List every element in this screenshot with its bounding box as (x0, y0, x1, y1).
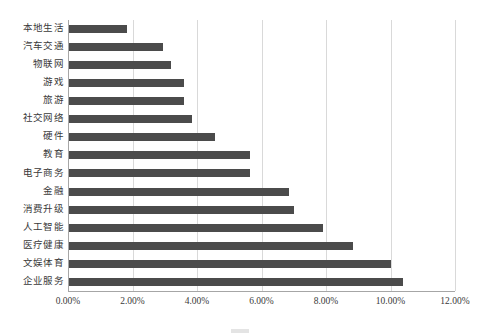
bar-金融 (68, 188, 289, 196)
category-label-硬件: 硬件 (0, 128, 64, 146)
bar-row (68, 128, 455, 146)
category-label-消费升级: 消费升级 (0, 201, 64, 219)
bar-汽车交通 (68, 43, 163, 51)
x-tick-label-4.00%: 4.00% (162, 296, 232, 306)
category-label-金融: 金融 (0, 183, 64, 201)
bar-文娱体育 (68, 260, 391, 268)
category-label-游戏: 游戏 (0, 74, 64, 92)
bar-row (68, 219, 455, 237)
bar-row (68, 237, 455, 255)
bar-硬件 (68, 133, 215, 141)
x-tick-label-2.00%: 2.00% (98, 296, 168, 306)
bar-row (68, 20, 455, 38)
bar-row (68, 92, 455, 110)
category-label-企业服务: 企业服务 (0, 273, 64, 291)
bar-row (68, 165, 455, 183)
category-label-教育: 教育 (0, 146, 64, 164)
bar-消费升级 (68, 206, 294, 214)
caption-swatch (231, 329, 249, 333)
category-label-本地生活: 本地生活 (0, 20, 64, 38)
category-label-旅游: 旅游 (0, 92, 64, 110)
bar-社交网络 (68, 115, 192, 123)
gridline-12.00% (455, 20, 456, 291)
bar-物联网 (68, 61, 171, 69)
bar-游戏 (68, 79, 184, 87)
bar-电子商务 (68, 169, 250, 177)
bar-row (68, 146, 455, 164)
bar-chart: 本地生活汽车交通物联网游戏旅游社交网络硬件教育电子商务金融消费升级人工智能医疗健… (0, 0, 485, 335)
x-axis-tick-labels: 0.00%2.00%4.00%6.00%8.00%10.00%12.00% (0, 296, 485, 310)
plot-area (68, 20, 455, 291)
category-label-医疗健康: 医疗健康 (0, 237, 64, 255)
bar-row (68, 273, 455, 291)
bar-row (68, 110, 455, 128)
category-label-文娱体育: 文娱体育 (0, 255, 64, 273)
category-label-物联网: 物联网 (0, 56, 64, 74)
category-label-电子商务: 电子商务 (0, 165, 64, 183)
category-label-社交网络: 社交网络 (0, 110, 64, 128)
x-tick-label-0.00%: 0.00% (33, 296, 103, 306)
bar-本地生活 (68, 25, 127, 33)
bar-教育 (68, 151, 250, 159)
x-tick-label-8.00%: 8.00% (291, 296, 361, 306)
bar-row (68, 255, 455, 273)
bar-企业服务 (68, 278, 403, 286)
bar-人工智能 (68, 224, 323, 232)
figure-caption (0, 325, 485, 335)
x-tick-label-10.00%: 10.00% (356, 296, 426, 306)
category-label-人工智能: 人工智能 (0, 219, 64, 237)
bar-row (68, 74, 455, 92)
category-axis-labels: 本地生活汽车交通物联网游戏旅游社交网络硬件教育电子商务金融消费升级人工智能医疗健… (0, 20, 64, 291)
x-axis-line (68, 291, 455, 292)
x-tick-label-6.00%: 6.00% (227, 296, 297, 306)
bar-series (68, 20, 455, 291)
bar-row (68, 183, 455, 201)
bar-医疗健康 (68, 242, 353, 250)
y-axis-line (68, 20, 69, 291)
x-tick-label-12.00%: 12.00% (420, 296, 485, 306)
category-label-汽车交通: 汽车交通 (0, 38, 64, 56)
bar-row (68, 38, 455, 56)
bar-row (68, 201, 455, 219)
bar-row (68, 56, 455, 74)
bar-旅游 (68, 97, 184, 105)
